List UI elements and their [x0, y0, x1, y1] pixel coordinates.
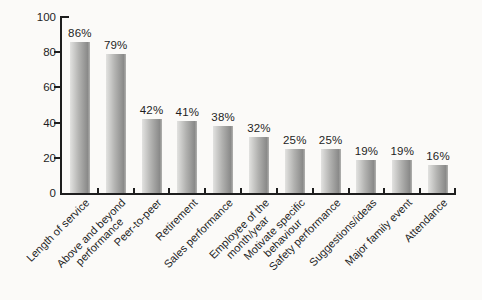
- y-axis-line: [60, 16, 62, 195]
- bar-value-label: 79%: [98, 39, 134, 51]
- x-axis-tick: [312, 188, 314, 193]
- bar-value-label: 25%: [277, 134, 313, 146]
- y-tick-label: 80: [20, 45, 56, 59]
- bar: [392, 160, 412, 193]
- bar-value-label: 41%: [169, 106, 205, 118]
- bar-value-label: 38%: [205, 111, 241, 123]
- bar: [142, 119, 162, 193]
- bar-chart-figure: 86%79%42%41%38%32%25%25%19%19%16% 020406…: [0, 0, 482, 300]
- bar-value-label: 42%: [134, 104, 170, 116]
- bar-value-label: 16%: [420, 150, 456, 162]
- bar-value-label: 32%: [241, 122, 277, 134]
- plot-area: 86%79%42%41%38%32%25%25%19%19%16%: [62, 17, 456, 193]
- bar: [249, 137, 269, 193]
- bar-value-label: 25%: [313, 134, 349, 146]
- x-axis-tick: [419, 188, 421, 193]
- bar: [177, 121, 197, 193]
- x-axis-tick: [348, 188, 350, 193]
- x-axis-tick: [168, 188, 170, 193]
- y-tick-label: 40: [20, 116, 56, 130]
- x-axis-tick: [133, 188, 135, 193]
- y-tick-label: 20: [20, 151, 56, 165]
- x-axis-tick: [97, 188, 99, 193]
- bar: [213, 126, 233, 193]
- x-axis-tick: [276, 188, 278, 193]
- bar: [428, 165, 448, 193]
- bar: [285, 149, 305, 193]
- x-axis-tick: [240, 188, 242, 193]
- bar-value-label: 86%: [62, 27, 98, 39]
- bar: [106, 54, 126, 193]
- bar: [356, 160, 376, 193]
- bar-value-label: 19%: [349, 145, 385, 157]
- y-tick-label: 60: [20, 80, 56, 94]
- y-tick-label: 100: [20, 10, 56, 24]
- y-axis-top-cap-tick: [62, 16, 69, 18]
- bar-value-label: 19%: [384, 145, 420, 157]
- bar: [321, 149, 341, 193]
- x-axis-tick: [204, 188, 206, 193]
- y-tick-label: 0: [20, 186, 56, 200]
- x-axis-tick: [383, 188, 385, 193]
- x-axis-tick: [454, 188, 456, 193]
- bar: [70, 42, 90, 193]
- x-axis-line: [60, 193, 456, 195]
